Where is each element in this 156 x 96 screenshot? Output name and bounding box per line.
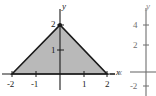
secondary-y-tick-label--2: -2 (130, 82, 137, 91)
figure-container: -2 -1 1 2 1 2 x y 4 2 -2 x y (0, 0, 156, 96)
y-tick-label-2: 2 (51, 20, 55, 29)
apex-point (58, 23, 62, 27)
secondary-x-axis-label: x (118, 68, 122, 77)
secondary-y-axis-label: y (146, 2, 150, 11)
triangle-graph-panel: -2 -1 1 2 1 2 x y (0, 0, 122, 96)
x-tick-label-2: 2 (105, 80, 109, 89)
triangle-graph-svg (0, 0, 122, 96)
x-tick-label--1: -1 (31, 80, 38, 89)
secondary-y-tick-label-2: 2 (133, 41, 137, 50)
y-axis-label: y (62, 2, 66, 11)
secondary-y-tick-label-4: 4 (133, 21, 137, 30)
x-tick-label--2: -2 (7, 80, 14, 89)
x-tick-label-1: 1 (82, 80, 86, 89)
secondary-graph-panel: 4 2 -2 x y (122, 0, 156, 96)
secondary-graph-svg (122, 0, 156, 96)
y-tick-label-1: 1 (51, 46, 55, 55)
